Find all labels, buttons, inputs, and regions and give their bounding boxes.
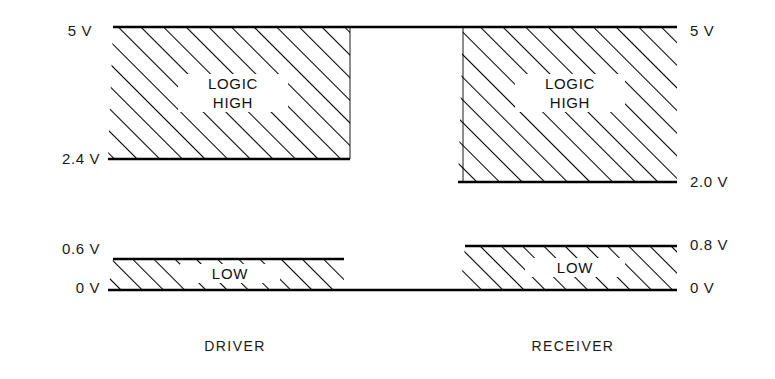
receiver-low-bottom-voltage-label: 0 V [690, 279, 770, 296]
diagram-canvas [0, 0, 775, 379]
driver-logic-high-label: LOGIC HIGH [178, 74, 288, 112]
driver-high-bottom-voltage-label: 2.4 V [0, 150, 100, 167]
receiver-low-label: LOW [525, 258, 625, 277]
receiver-low-label-text: LOW [525, 258, 625, 277]
receiver-high-bottom-voltage-label: 2.0 V [690, 173, 770, 190]
driver-logic-high-label-line2: HIGH [178, 93, 288, 112]
receiver-logic-high-label-line2: HIGH [515, 93, 625, 112]
receiver-high-top-voltage-label: 5 V [690, 22, 770, 39]
driver-low-top-voltage-label: 0.6 V [0, 240, 100, 257]
driver-high-top-voltage-label: 5 V [0, 22, 92, 39]
receiver-logic-high-label: LOGIC HIGH [515, 74, 625, 112]
driver-low-bottom-voltage-label: 0 V [0, 279, 100, 296]
receiver-caption: RECEIVER [493, 338, 653, 354]
receiver-low-top-voltage-label: 0.8 V [690, 236, 770, 253]
logic-level-diagram: 5 V 2.4 V 0.6 V 0 V 5 V 2.0 V 0.8 V 0 V … [0, 0, 775, 379]
driver-logic-high-label-line1: LOGIC [178, 74, 288, 93]
driver-low-label-text: LOW [180, 264, 280, 283]
driver-caption: DRIVER [160, 338, 310, 354]
driver-low-label: LOW [180, 264, 280, 283]
receiver-logic-high-label-line1: LOGIC [515, 74, 625, 93]
